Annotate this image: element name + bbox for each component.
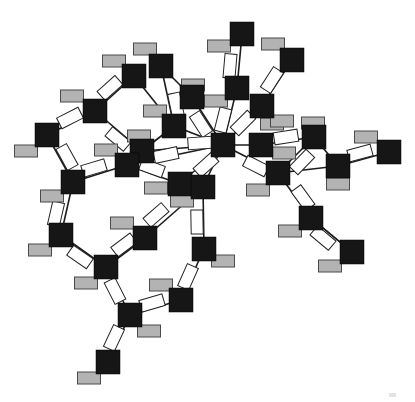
node-A (149, 54, 173, 78)
graph-canvas (0, 0, 415, 402)
edge-label-P-Q (273, 129, 299, 145)
node-U (49, 223, 73, 247)
badge-W (111, 217, 134, 229)
node-L (115, 153, 139, 177)
badge-R (355, 131, 378, 143)
node-AC (96, 350, 120, 374)
badge-P (273, 147, 296, 159)
node-P (249, 133, 273, 157)
badge-N (171, 195, 194, 207)
node-Q (302, 125, 326, 149)
node-I (250, 94, 274, 118)
edge-label-W-N (143, 203, 169, 228)
badge-Y (279, 225, 302, 237)
badge-U (29, 244, 52, 256)
badge-E (208, 40, 231, 52)
node-N (191, 175, 215, 199)
badge-V (41, 190, 64, 202)
node-Y (299, 206, 323, 230)
edge-label-S-R (347, 144, 373, 162)
edge-label-AB-AD (139, 294, 165, 312)
badge-Z (319, 260, 342, 272)
badge-C (61, 90, 84, 102)
badge-T (247, 184, 270, 196)
node-E (230, 22, 254, 46)
badge-M (145, 182, 168, 194)
edge-label-C-D (57, 107, 84, 129)
edge-layer (47, 34, 389, 362)
scan-artifact (389, 393, 396, 397)
node-Z (340, 240, 364, 264)
node-S (326, 154, 350, 178)
node-X (192, 237, 216, 261)
node-O (211, 133, 235, 157)
badge-S (327, 178, 350, 190)
node-M (168, 172, 192, 196)
node-H (225, 76, 249, 100)
node-AD (169, 288, 193, 312)
edge-label-N-X (191, 210, 203, 234)
node-C (83, 99, 107, 123)
edge-label-K-O (188, 136, 213, 150)
node-W (133, 226, 157, 250)
edge-label-X-AD (178, 264, 199, 291)
edge-label-AB-AC (103, 325, 124, 352)
badge-L (95, 144, 118, 156)
node-V (61, 170, 85, 194)
badge-D (15, 145, 38, 157)
node-T (266, 161, 290, 185)
edge-label-H-O (214, 107, 231, 133)
edge-label-E-H (223, 54, 237, 79)
edge-label-O-T (243, 155, 270, 177)
node-G (180, 85, 204, 109)
node-AB (118, 303, 142, 327)
network-diagram (0, 0, 415, 402)
edge-label-AA-AB (104, 278, 126, 305)
node-B (122, 64, 146, 88)
node-F (280, 48, 304, 72)
badge-A (134, 43, 157, 55)
edge-label-B-C (97, 76, 123, 101)
node-J (162, 114, 186, 138)
node-D (35, 123, 59, 147)
node-R (377, 140, 401, 164)
node-AA (94, 255, 118, 279)
node-layer (35, 22, 401, 374)
badge-H (205, 95, 228, 107)
